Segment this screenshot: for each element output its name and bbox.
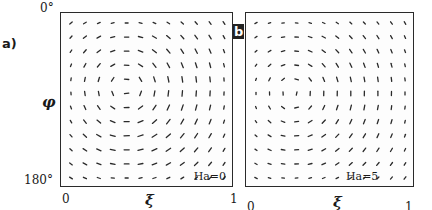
hartmann-label-a: Ha=0 (194, 170, 226, 183)
x-tick-1-a: 1 (230, 193, 238, 205)
y-axis-top-label: 0° (40, 2, 54, 14)
x-tick-1-b: 1 (405, 201, 413, 210)
vector-plot-b: Ha=5 (245, 12, 414, 187)
x-tick-0-b: 0 (247, 201, 255, 210)
vector-field-b (246, 13, 415, 188)
x-tick-0-a: 0 (62, 193, 70, 205)
x-axis-label-xi-b: ξ (333, 193, 342, 210)
vector-plot-a: Ha=0 (60, 12, 233, 187)
panel-b-tag: b (233, 24, 244, 39)
vector-field-a (61, 13, 234, 188)
hartmann-label-b: Ha=5 (346, 170, 378, 183)
x-axis-label-xi-a: ξ (145, 191, 154, 209)
y-axis-bottom-label: 180° (24, 174, 53, 186)
panel-a-tag: a) (2, 36, 17, 51)
y-axis-label-phi: φ (42, 93, 56, 111)
